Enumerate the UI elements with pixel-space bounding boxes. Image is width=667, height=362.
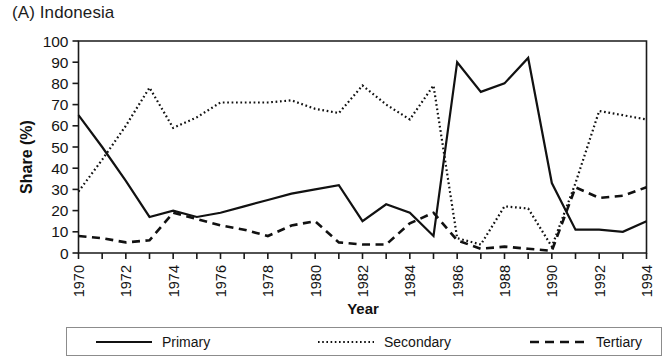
y-axis-tick-label: 0 — [60, 245, 69, 262]
y-axis-tick-label: 90 — [51, 54, 69, 71]
x-axis-tick-label: 1970 — [71, 265, 87, 297]
legend-label-tertiary: Tertiary — [596, 334, 642, 350]
dashed-line-swatch — [529, 336, 587, 348]
legend-item-tertiary: Tertiary — [529, 328, 642, 355]
y-axis-tick-label: 80 — [51, 75, 69, 92]
y-axis-tick-label: 20 — [51, 202, 69, 219]
chart-figure: (A) Indonesia Share (%) 0102030405060708… — [0, 0, 667, 362]
legend-label-primary: Primary — [162, 334, 210, 350]
series-line-tertiary — [79, 187, 647, 251]
y-axis-tick-label: 40 — [51, 160, 69, 177]
y-axis-tick-label: 30 — [51, 181, 69, 198]
legend-item-secondary: Secondary — [317, 328, 451, 355]
x-axis-tick-label: 1984 — [402, 265, 418, 297]
x-axis-tick-label: 1988 — [497, 265, 513, 297]
y-axis-tick-label: 50 — [51, 139, 69, 156]
x-axis-tick-label: 1986 — [450, 265, 466, 297]
legend-item-primary: Primary — [95, 328, 210, 355]
y-axis-tick-label: 100 — [43, 33, 69, 50]
x-axis-tick-label: 1982 — [355, 265, 371, 297]
x-axis-tick-label: 1976 — [213, 265, 229, 297]
dotted-line-swatch — [317, 336, 375, 348]
legend-label-secondary: Secondary — [384, 334, 451, 350]
y-axis-tick-label: 60 — [51, 117, 69, 134]
y-axis-tick-label: 10 — [51, 223, 69, 240]
x-axis-tick-label: 1974 — [166, 265, 182, 297]
solid-line-swatch — [95, 336, 153, 348]
x-axis-tick-label: 1990 — [544, 265, 560, 297]
x-axis-tick-label: 1994 — [639, 265, 655, 297]
chart-legend: Primary Secondary Tertiary — [66, 327, 662, 356]
y-axis-tick-label: 70 — [51, 96, 69, 113]
x-axis-tick-label: 1972 — [118, 265, 134, 297]
x-axis-tick-label: 1992 — [592, 265, 608, 297]
x-axis-tick-label: 1980 — [308, 265, 324, 297]
x-axis-title: Year — [78, 300, 648, 317]
x-axis-tick-label: 1978 — [260, 265, 276, 297]
